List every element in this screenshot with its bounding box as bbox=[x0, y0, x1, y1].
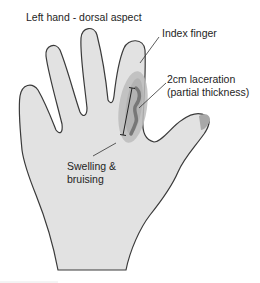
label-swelling-line2: bruising bbox=[67, 173, 116, 186]
label-laceration-line2: (partial thickness) bbox=[167, 86, 249, 99]
label-index-finger: Index finger bbox=[162, 27, 217, 40]
label-swelling: Swelling & bruising bbox=[67, 160, 116, 186]
label-laceration: 2cm laceration (partial thickness) bbox=[167, 73, 249, 99]
label-laceration-line1: 2cm laceration bbox=[167, 73, 249, 86]
hand-outline bbox=[19, 29, 209, 270]
diagram-title: Left hand - dorsal aspect bbox=[26, 11, 142, 24]
hand-diagram bbox=[0, 0, 260, 283]
label-swelling-line1: Swelling & bbox=[67, 160, 116, 173]
